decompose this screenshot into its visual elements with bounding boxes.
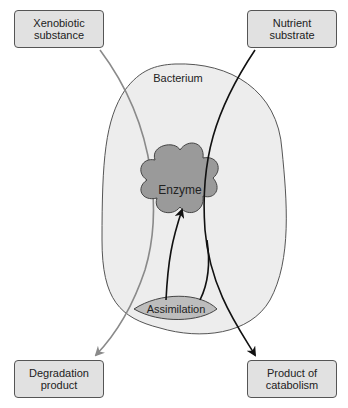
- nutrient-label-line1: Nutrient: [273, 17, 312, 29]
- xenobiotic-label-line1: Xenobiotic: [33, 17, 84, 29]
- product-of-catabolism-box: Product ofcatabolism: [247, 360, 337, 398]
- assimilation-label: Assimilation: [140, 303, 212, 315]
- xenobiotic-substance-box: Xenobioticsubstance: [14, 10, 104, 48]
- enzyme-label: Enzyme: [150, 183, 210, 197]
- degradation-label-line1: Degradation: [29, 367, 89, 379]
- degradation-label-line2: product: [41, 379, 78, 391]
- nutrient-label-line2: substrate: [269, 29, 314, 41]
- bacterium-label: Bacterium: [148, 72, 208, 84]
- nutrient-substrate-box: Nutrientsubstrate: [247, 10, 337, 48]
- degradation-product-box: Degradationproduct: [14, 360, 104, 398]
- catabolism-label-line1: Product of: [267, 367, 317, 379]
- diagram-canvas: [0, 0, 348, 408]
- catabolism-label-line2: catabolism: [266, 379, 319, 391]
- xenobiotic-label-line2: substance: [34, 29, 84, 41]
